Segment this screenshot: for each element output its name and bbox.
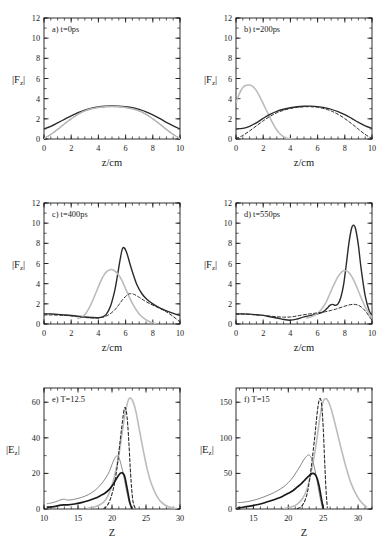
y-axis-label: |Fz|	[204, 259, 217, 272]
y-tick-label: 10	[32, 219, 40, 228]
x-axis-label: z/cm	[102, 342, 122, 353]
y-tick-label: 8	[228, 54, 232, 63]
x-tick-label: 6	[124, 329, 128, 338]
plot-d: 0246810024681012d) t=550psz/cm|Fz|	[192, 185, 384, 369]
y-tick-label: 0	[228, 135, 232, 144]
y-tick-label: 2	[36, 115, 40, 124]
y-tick-label: 50	[224, 469, 232, 478]
x-tick-label: 10	[40, 514, 48, 523]
plot-frame-e	[44, 388, 180, 509]
x-tick-label: 8	[151, 144, 155, 153]
x-tick-label: 2	[69, 329, 73, 338]
y-tick-label: 4	[36, 280, 40, 289]
y-tick-label: 150	[220, 398, 232, 407]
plot-e: 10152025300204060e) T=12.5Z|Ez|	[0, 370, 192, 554]
y-tick-label: 0	[36, 135, 40, 144]
y-tick-label: 10	[32, 34, 40, 43]
panel-f: 15202530050100150f) T=15Z|Ez|	[192, 370, 384, 554]
y-tick-label: 12	[224, 14, 232, 23]
x-tick-label: 10	[176, 144, 184, 153]
x-tick-label: 4	[96, 144, 100, 153]
plot-c: 0246810024681012c) t=400psz/cm|Fz|	[0, 185, 192, 369]
panel-title: c) t=400ps	[52, 210, 88, 219]
y-tick-label: 0	[36, 505, 40, 514]
y-tick-label: 100	[220, 434, 232, 443]
figure-root: 0246810024681012a) t=0psz/cm|Fz| 0246810…	[0, 0, 384, 554]
y-axis-label: |Fz|	[12, 259, 25, 272]
panel-b: 0246810024681012b) t=200psz/cm|Fz|	[192, 0, 384, 184]
x-tick-label: 8	[343, 144, 347, 153]
y-axis-label: |Fz|	[204, 74, 217, 87]
y-tick-label: 60	[32, 398, 40, 407]
x-tick-label: 4	[96, 329, 100, 338]
x-tick-label: 25	[319, 514, 327, 523]
y-tick-label: 6	[36, 75, 40, 84]
x-tick-label: 0	[42, 144, 46, 153]
panel-title: f) T=15	[244, 395, 270, 404]
y-tick-label: 6	[36, 260, 40, 269]
y-tick-label: 8	[36, 54, 40, 63]
y-tick-label: 2	[228, 115, 232, 124]
plot-frame-a	[44, 18, 180, 139]
x-tick-label: 30	[354, 514, 362, 523]
y-axis-label: |Fz|	[12, 74, 25, 87]
y-tick-label: 10	[224, 34, 232, 43]
x-tick-label: 6	[316, 144, 320, 153]
x-tick-label: 20	[284, 514, 292, 523]
y-tick-label: 10	[224, 219, 232, 228]
x-tick-label: 8	[343, 329, 347, 338]
y-tick-label: 2	[228, 300, 232, 309]
plot-frame-d	[236, 203, 372, 324]
y-tick-label: 0	[228, 320, 232, 329]
panel-title: d) t=550ps	[244, 210, 280, 219]
x-tick-label: 20	[108, 514, 116, 523]
y-tick-label: 12	[224, 199, 232, 208]
x-tick-label: 2	[261, 329, 265, 338]
x-tick-label: 2	[69, 144, 73, 153]
y-tick-label: 4	[228, 280, 232, 289]
panel-c: 0246810024681012c) t=400psz/cm|Fz|	[0, 185, 192, 369]
y-tick-label: 20	[32, 469, 40, 478]
x-axis-label: Z	[109, 527, 115, 538]
x-tick-label: 6	[316, 329, 320, 338]
plot-b: 0246810024681012b) t=200psz/cm|Fz|	[192, 0, 384, 184]
plot-a: 0246810024681012a) t=0psz/cm|Fz|	[0, 0, 192, 184]
panel-title: e) T=12.5	[52, 395, 85, 404]
x-tick-label: 0	[234, 144, 238, 153]
plot-frame-b	[236, 18, 372, 139]
y-tick-label: 8	[228, 239, 232, 248]
x-tick-label: 15	[249, 514, 257, 523]
x-tick-label: 25	[142, 514, 150, 523]
x-axis-label: z/cm	[294, 342, 314, 353]
plot-f: 15202530050100150f) T=15Z|Ez|	[192, 370, 384, 554]
y-tick-label: 6	[228, 260, 232, 269]
x-tick-label: 6	[124, 144, 128, 153]
x-tick-label: 2	[261, 144, 265, 153]
x-axis-label: z/cm	[102, 157, 122, 168]
x-tick-label: 4	[288, 329, 292, 338]
x-tick-label: 0	[42, 329, 46, 338]
y-tick-label: 4	[228, 95, 232, 104]
y-tick-label: 12	[32, 199, 40, 208]
panel-e: 10152025300204060e) T=12.5Z|Ez|	[0, 370, 192, 554]
x-tick-label: 30	[176, 514, 184, 523]
y-tick-label: 8	[36, 239, 40, 248]
panel-d: 0246810024681012d) t=550psz/cm|Fz|	[192, 185, 384, 369]
y-tick-label: 2	[36, 300, 40, 309]
x-tick-label: 15	[74, 514, 82, 523]
y-tick-label: 4	[36, 95, 40, 104]
x-tick-label: 10	[176, 329, 184, 338]
y-tick-label: 0	[228, 505, 232, 514]
x-tick-label: 10	[368, 329, 376, 338]
panel-title: b) t=200ps	[244, 25, 280, 34]
y-axis-label: |Ez|	[6, 444, 20, 457]
y-axis-label: |Ez|	[200, 444, 214, 457]
panel-title: a) t=0ps	[52, 25, 79, 34]
x-tick-label: 0	[234, 329, 238, 338]
y-tick-label: 0	[36, 320, 40, 329]
x-tick-label: 8	[151, 329, 155, 338]
y-tick-label: 6	[228, 75, 232, 84]
x-axis-label: Z	[301, 527, 307, 538]
x-tick-label: 4	[288, 144, 292, 153]
plot-frame-f	[236, 388, 372, 509]
